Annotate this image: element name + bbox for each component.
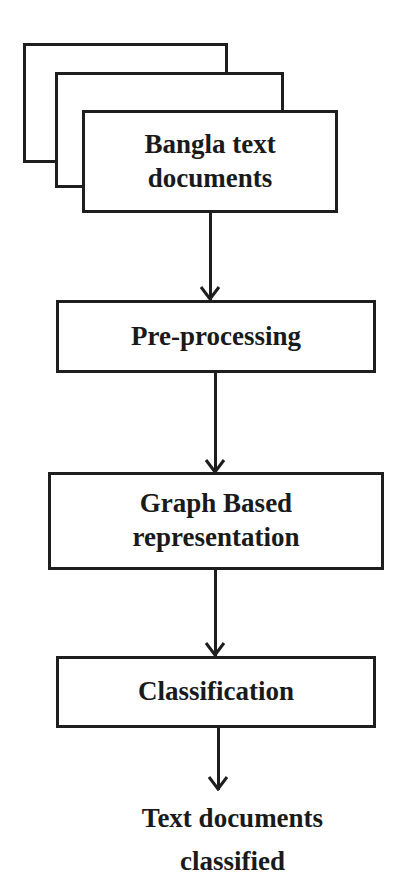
input-label-line2: documents	[144, 162, 275, 196]
step-label-preprocessing: Pre-processing	[131, 320, 301, 354]
step-node-preprocessing: Pre-processing	[56, 300, 376, 373]
step-label-graph-line2: representation	[133, 521, 300, 555]
step-label-classification: Classification	[138, 675, 294, 709]
step-node-classification: Classification	[56, 656, 376, 728]
step-label-graph-line1: Graph Based	[133, 487, 300, 521]
output-label-line2: classified	[100, 840, 365, 883]
input-label-line1: Bangla text	[144, 128, 275, 162]
step-node-graph-based-representation: Graph Based representation	[48, 472, 384, 570]
output-label-line1: Text documents	[100, 797, 365, 840]
input-node-bangla-text-documents: Bangla text documents	[82, 110, 338, 213]
output-node-text-documents-classified: Text documents classified	[100, 797, 365, 883]
